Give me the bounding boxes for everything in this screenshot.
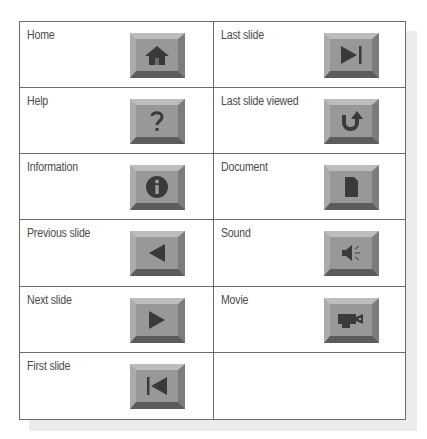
help-icon [144,109,170,133]
label-movie: Movie [221,293,248,307]
info-icon [144,175,170,199]
table-cell-empty [214,353,405,419]
last-slide-button[interactable] [324,33,379,78]
last-slide-icon [338,44,364,66]
document-button[interactable] [324,165,379,210]
label-previous-slide: Previous slide [27,226,90,240]
table-cell-sound: Sound [214,220,405,286]
next-slide-button[interactable] [130,298,185,343]
last-slide-viewed-button[interactable] [324,99,379,144]
table-cell-document: Document [214,154,405,220]
document-icon [338,175,364,199]
label-first-slide: First slide [27,359,70,373]
label-home: Home [27,28,54,42]
action-buttons-table: Home Last slide Help Last slide [19,21,406,420]
first-slide-button[interactable] [130,364,185,409]
previous-slide-button[interactable] [130,231,185,276]
table-cell-movie: Movie [214,287,405,353]
home-button[interactable] [130,33,185,78]
return-icon [338,109,364,133]
table-cell-next-slide: Next slide [20,287,214,353]
label-last-slide-viewed: Last slide viewed [221,94,298,108]
label-information: Information [27,160,78,174]
home-icon [144,44,170,66]
label-help: Help [27,94,48,108]
table-cell-first-slide: First slide [20,353,214,419]
label-document: Document [221,160,268,174]
sound-button[interactable] [324,231,379,276]
sound-icon [338,242,364,264]
label-next-slide: Next slide [27,293,72,307]
label-last-slide: Last slide [221,28,264,42]
next-icon [144,309,170,331]
information-button[interactable] [130,165,185,210]
movie-icon [336,310,366,330]
previous-icon [144,242,170,264]
movie-button[interactable] [324,298,379,343]
table-cell-previous-slide: Previous slide [20,220,214,286]
help-button[interactable] [130,99,185,144]
table-cell-information: Information [20,154,214,220]
table-cell-help: Help [20,88,214,154]
table-cell-home: Home [20,22,214,88]
table-cell-last-slide: Last slide [214,22,405,88]
label-sound: Sound [221,226,251,240]
first-slide-icon [144,375,170,397]
table-cell-last-slide-viewed: Last slide viewed [214,88,405,154]
